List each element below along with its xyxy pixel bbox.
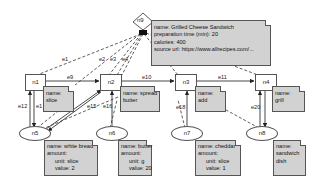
note-n7: name: cheddar amount: unit: slice value:… — [195, 140, 241, 176]
edge-label-e15: e15 — [87, 103, 96, 109]
note-line: name: cheddar — [198, 143, 238, 150]
note-line: grill — [275, 97, 302, 104]
note-fold-icon — [265, 20, 271, 26]
note-line: value: 2 — [47, 165, 95, 172]
note-fold-icon — [92, 140, 98, 146]
note-line: slice — [46, 97, 71, 104]
note-line: value: 20 — [121, 165, 149, 172]
note-line: source url: https://www.allrecipes.com/.… — [154, 46, 268, 53]
note-n2: name: spread butter — [120, 86, 160, 112]
edge-label-e20: e20 — [251, 104, 260, 110]
edge-label-e9: e9 — [67, 74, 73, 80]
note-line: amount: — [47, 150, 95, 157]
node-n7: n7 — [171, 126, 203, 141]
note-line: name: — [275, 90, 302, 97]
note-line: unit: slice — [198, 158, 238, 165]
edge-label-e11: e11 — [218, 74, 227, 80]
note-fold-icon — [154, 86, 160, 92]
note-line: unit: g — [121, 158, 149, 165]
note-n8: name: sandwich dish — [273, 140, 306, 176]
note-n1: name: slice — [43, 86, 74, 112]
note-line: name: butter — [121, 143, 149, 150]
node-n9-label: n9 — [137, 17, 144, 23]
note-fold-icon — [220, 86, 226, 92]
edge-label-e3: e3 — [110, 56, 116, 62]
note-line: name: Grilled Cheese Sandwich — [154, 24, 268, 31]
note-line: sandwich — [276, 150, 303, 157]
node-n8: n8 — [246, 126, 278, 141]
note-fold-icon — [146, 140, 152, 146]
note-n4: name: grill — [272, 86, 305, 112]
node-n3: n3 — [175, 74, 197, 91]
note-line: value: 1 — [198, 165, 238, 172]
note-line: amount: — [121, 150, 149, 157]
edge-label-e13: e1 — [36, 103, 42, 109]
node-n2: n2 — [100, 74, 122, 91]
node-n6: n6 — [96, 126, 128, 141]
note-line: name: white bread — [47, 143, 95, 150]
n9-anchor-block — [139, 30, 147, 35]
note-line: unit: slice — [47, 158, 95, 165]
edge-label-e12: e12 — [18, 103, 27, 109]
note-line: name: spread — [123, 90, 157, 97]
recipe-graph-diagram: n9 name: Grilled Cheese Sandwich prepara… — [0, 0, 324, 184]
note-line: name: — [276, 143, 303, 150]
note-n5: name: white bread amount: unit: slice va… — [44, 140, 98, 176]
edge-label-e16: e16 — [103, 103, 112, 109]
note-n3: name: add — [195, 86, 226, 112]
note-line: calories: 400 — [154, 39, 268, 46]
edge-label-e10: e10 — [142, 74, 151, 80]
edge-e3 — [117, 34, 142, 75]
edge-label-e2: e2 — [99, 56, 105, 62]
note-fold-icon — [299, 86, 305, 92]
note-line: dish — [276, 158, 303, 165]
edge-label-e1: e1 — [62, 56, 68, 62]
note-n9: name: Grilled Cheese Sandwich preparatio… — [151, 20, 271, 66]
edge-label-e4: e4 — [122, 56, 128, 62]
note-line: add — [198, 97, 223, 104]
note-line: butter — [123, 97, 157, 104]
note-fold-icon — [68, 86, 74, 92]
note-line: amount: — [198, 150, 238, 157]
node-n5: n5 — [19, 126, 51, 141]
note-line: preparation time (min): 20 — [154, 31, 268, 38]
note-fold-icon — [300, 140, 306, 146]
edge-label-e18: e18 — [176, 104, 185, 110]
note-fold-icon — [235, 140, 241, 146]
note-n6: name: butter amount: unit: g value: 20 — [118, 140, 152, 176]
